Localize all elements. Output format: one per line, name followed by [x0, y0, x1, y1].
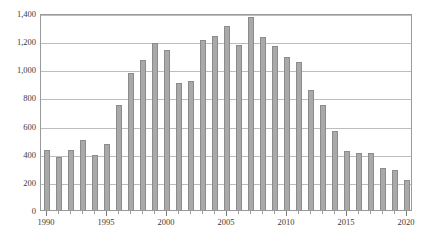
bar — [128, 73, 134, 210]
x-tick-minor — [58, 211, 59, 214]
y-tick-label: 600 — [23, 123, 36, 132]
y-tick-label: 200 — [23, 179, 36, 188]
bar — [68, 150, 74, 211]
bar — [188, 81, 194, 210]
y-tick-label: 400 — [23, 151, 36, 160]
y-tick-label: 1,000 — [17, 66, 36, 75]
x-tick-minor — [298, 211, 299, 214]
x-tick-minor — [178, 211, 179, 214]
x-tick-minor — [94, 211, 95, 214]
bars-container — [41, 15, 411, 210]
x-tick-minor — [274, 211, 275, 214]
bar — [152, 43, 158, 210]
x-tick-label: 1995 — [98, 218, 115, 227]
y-tick-label: 0 — [32, 207, 36, 216]
bar — [164, 50, 170, 210]
x-tick-label: 2020 — [398, 218, 415, 227]
y-tick-label: 1,200 — [17, 38, 36, 47]
x-tick-minor — [130, 211, 131, 214]
x-tick-minor — [202, 211, 203, 214]
y-axis: 02004006008001,0001,2001,400 — [0, 0, 36, 241]
bar — [404, 180, 410, 210]
bar — [320, 105, 326, 210]
x-tick-minor — [394, 211, 395, 214]
x-tick-minor — [154, 211, 155, 214]
bar — [368, 153, 374, 210]
bar-chart: 02004006008001,0001,2001,400 19901995200… — [0, 0, 429, 241]
x-tick-label: 2000 — [158, 218, 175, 227]
x-axis: 1990199520002005201020152020 — [0, 218, 429, 232]
bar — [272, 46, 278, 210]
x-tick-minor — [190, 211, 191, 214]
bar — [380, 168, 386, 210]
x-tick-minor — [214, 211, 215, 214]
x-tick-minor — [358, 211, 359, 214]
x-tick-major — [406, 211, 407, 216]
x-tick-label: 2010 — [278, 218, 295, 227]
bar — [44, 150, 50, 210]
bar — [212, 36, 218, 210]
bar — [92, 155, 98, 210]
x-tick-major — [166, 211, 167, 216]
bar — [80, 140, 86, 210]
bar — [176, 83, 182, 210]
x-tick-label: 2005 — [218, 218, 235, 227]
x-tick-major — [286, 211, 287, 216]
x-tick-major — [226, 211, 227, 216]
bar — [140, 60, 146, 210]
y-tick-label: 800 — [23, 94, 36, 103]
x-tick-minor — [250, 211, 251, 214]
x-tick-label: 1990 — [38, 218, 55, 227]
bar — [56, 157, 62, 210]
x-tick-major — [46, 211, 47, 216]
x-tick-minor — [142, 211, 143, 214]
x-tick-minor — [382, 211, 383, 214]
bar — [332, 131, 338, 210]
x-axis-ticks — [40, 211, 412, 216]
x-tick-minor — [334, 211, 335, 214]
bar — [356, 153, 362, 210]
bar — [200, 40, 206, 210]
bar — [236, 45, 242, 210]
bar — [116, 105, 122, 210]
bar — [260, 37, 266, 210]
bar — [392, 170, 398, 210]
x-tick-major — [106, 211, 107, 216]
x-tick-minor — [70, 211, 71, 214]
bar — [296, 62, 302, 210]
x-tick-minor — [262, 211, 263, 214]
bar — [308, 90, 314, 210]
bar — [248, 17, 254, 210]
y-tick-label: 1,400 — [17, 10, 36, 19]
x-tick-minor — [310, 211, 311, 214]
bar — [344, 151, 350, 210]
x-tick-minor — [118, 211, 119, 214]
bar — [284, 57, 290, 210]
x-tick-minor — [370, 211, 371, 214]
bar — [104, 144, 110, 210]
x-tick-minor — [238, 211, 239, 214]
x-tick-major — [346, 211, 347, 216]
plot-area — [40, 14, 412, 211]
x-tick-minor — [82, 211, 83, 214]
x-tick-label: 2015 — [338, 218, 355, 227]
bar — [224, 26, 230, 210]
x-tick-minor — [322, 211, 323, 214]
